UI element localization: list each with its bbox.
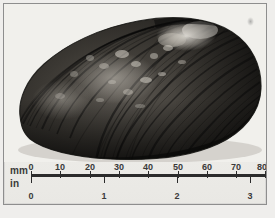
mussel-shell-image: [4, 4, 266, 162]
in-tick-0: [31, 174, 32, 183]
mm-tick-60: [207, 171, 208, 178]
mm-label-0: 0: [28, 163, 33, 172]
mm-tick-70: [236, 171, 237, 178]
photographic-plate: mm in 0 10 20 30 40 50 60: [0, 0, 275, 218]
in-tick-2: [177, 174, 178, 183]
mm-tick-10: [60, 171, 61, 178]
dual-scale-ruler: mm in 0 10 20 30 40 50 60: [4, 162, 266, 204]
mm-label-50: 50: [173, 163, 183, 172]
mm-tick-40: [148, 171, 149, 178]
mm-label-60: 60: [202, 163, 212, 172]
in-label-1: 1: [101, 192, 106, 201]
mm-tick-80: [265, 171, 266, 178]
plate-frame: mm in 0 10 20 30 40 50 60: [3, 3, 267, 205]
in-scale-row: 0 1 2 3: [4, 178, 266, 202]
mm-tick-30: [119, 171, 120, 178]
mm-tick-20: [90, 171, 91, 178]
in-label-0: 0: [28, 192, 33, 201]
in-tick-1: [104, 174, 105, 183]
in-tick-3: [250, 174, 251, 183]
mm-label-70: 70: [231, 163, 241, 172]
mm-label-20: 20: [85, 163, 95, 172]
mm-label-10: 10: [55, 163, 65, 172]
mm-tick-50: [178, 171, 179, 178]
mm-label-80: 80: [257, 163, 267, 172]
mm-label-30: 30: [114, 163, 124, 172]
shell-photograph: [4, 4, 266, 162]
in-label-2: 2: [174, 192, 179, 201]
mm-label-40: 40: [143, 163, 153, 172]
plate-blemish-icon: [247, 17, 254, 26]
in-label-3: 3: [247, 192, 252, 201]
